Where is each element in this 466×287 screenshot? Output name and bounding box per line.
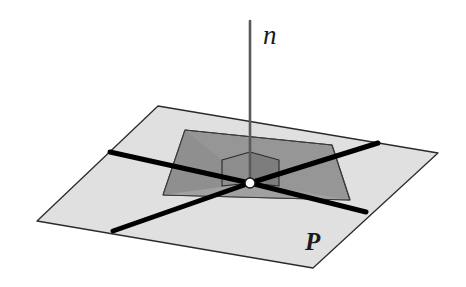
diagram-canvas: n P <box>0 0 466 287</box>
label-normal-line: n <box>263 20 277 50</box>
label-plane: P <box>304 228 321 255</box>
geometry-svg: n P <box>0 0 466 287</box>
foot-point-marker <box>245 178 255 188</box>
